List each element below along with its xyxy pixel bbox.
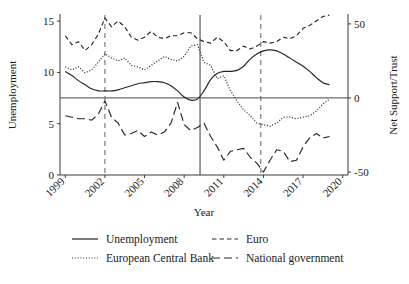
- x-ticklabel-1: 2002: [82, 175, 106, 199]
- line-chart: 051015-500501999200220052008201120142017…: [0, 0, 409, 284]
- y-ticklabel-right-0: -50: [354, 166, 369, 178]
- y-axis-title-left: Unemployment: [6, 61, 18, 129]
- legend-label-3: National government: [246, 252, 344, 265]
- y-axis-title-right: Net Support/Trust: [387, 55, 399, 134]
- series-european-central-bank: [65, 45, 329, 126]
- y-ticklabel-right-2: 50: [354, 18, 366, 30]
- series-unemployment: [65, 50, 329, 100]
- x-ticklabel-7: 2020: [320, 175, 344, 199]
- x-ticklabel-0: 1999: [43, 175, 67, 199]
- y-ticklabel-left-3: 15: [43, 15, 55, 27]
- legend-label-1: Euro: [246, 233, 269, 245]
- y-ticklabel-right-1: 0: [354, 92, 360, 104]
- y-ticklabel-left-1: 5: [49, 118, 55, 130]
- x-ticklabel-4: 2011: [201, 175, 225, 199]
- y-ticklabel-left-2: 10: [43, 66, 55, 78]
- legend-label-2: European Central Bank: [106, 252, 214, 265]
- x-ticklabel-5: 2014: [241, 175, 265, 199]
- x-ticklabel-2: 2005: [122, 175, 146, 199]
- x-axis-title: Year: [194, 206, 215, 218]
- chart-figure: 051015-500501999200220052008201120142017…: [0, 0, 409, 284]
- legend-label-0: Unemployment: [106, 233, 178, 246]
- x-ticklabel-3: 2008: [162, 175, 186, 199]
- x-ticklabel-6: 2017: [280, 175, 304, 199]
